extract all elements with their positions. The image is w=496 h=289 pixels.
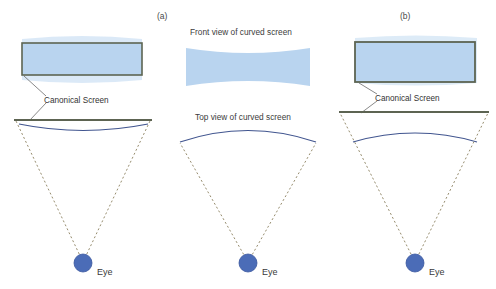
panel-middle: Front view of curved screen Top view of …	[165, 0, 331, 289]
leader-line-upper-b	[359, 83, 377, 94]
leader-line-lower-a	[30, 103, 46, 120]
view-cone-left-b	[340, 113, 415, 262]
eye-point-mid	[239, 254, 257, 272]
panel-b: Canonical Screen Eye	[331, 0, 496, 289]
panel-a-graphics	[0, 0, 165, 289]
view-cone-right-a	[83, 121, 150, 262]
panel-a: Canonical Screen Eye	[0, 0, 165, 289]
view-cone-left-mid	[180, 143, 248, 262]
eye-point-a	[74, 254, 92, 272]
figure-canvas: Canonical Screen Eye (a) Front view of c…	[0, 0, 496, 289]
eye-point-b	[406, 254, 424, 272]
eye-label-b: Eye	[429, 267, 445, 277]
eye-label-mid: Eye	[262, 267, 278, 277]
front-view-title: Front view of curved screen	[190, 27, 292, 37]
canonical-screen-rect-a	[22, 43, 142, 75]
canonical-screen-rect-b	[355, 42, 475, 82]
view-cone-right-mid	[248, 143, 316, 262]
curved-screen-arc-a	[19, 124, 148, 131]
view-cone-right-b	[415, 113, 488, 262]
view-cone-left-a	[16, 121, 83, 262]
eye-label-a: Eye	[97, 267, 113, 277]
canonical-screen-label-b: Canonical Screen	[375, 94, 440, 103]
curved-screen-arc-b	[353, 133, 477, 142]
panel-b-graphics	[331, 0, 496, 289]
canonical-screen-label-a: Canonical Screen	[44, 96, 109, 105]
curved-screen-front-view	[186, 48, 310, 86]
panel-middle-graphics	[165, 0, 331, 289]
top-view-title: Top view of curved screen	[195, 112, 291, 122]
curved-screen-top-arc-mid	[180, 131, 316, 143]
